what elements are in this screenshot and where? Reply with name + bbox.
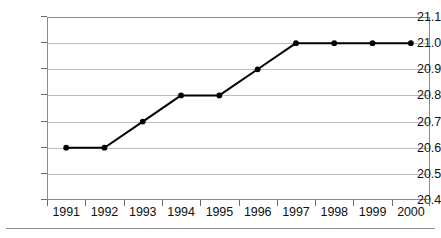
y-axis-tick-label: 21.0: [401, 37, 441, 49]
x-axis-tick-mark: [47, 200, 48, 206]
y-axis-tick-mark: [41, 173, 47, 174]
gridline: [48, 95, 429, 96]
x-axis-tick-mark: [239, 200, 240, 206]
x-axis-tick-label: 1995: [200, 206, 238, 219]
x-axis-tick-label: 1999: [353, 206, 391, 219]
y-axis-tick-mark: [41, 94, 47, 95]
x-axis-tick-mark: [392, 200, 393, 206]
x-axis-tick-label: 1997: [277, 206, 315, 219]
y-axis-tick-mark: [41, 147, 47, 148]
x-axis-tick-label: 1994: [162, 206, 200, 219]
gridline: [48, 122, 429, 123]
y-axis-tick-label: 20.7: [401, 116, 441, 128]
x-axis-tick-label: 2000: [392, 206, 430, 219]
x-axis-tick-mark: [315, 200, 316, 206]
x-axis-tick-mark: [200, 200, 201, 206]
x-axis-tick-mark: [277, 200, 278, 206]
gridline: [48, 174, 429, 175]
x-axis-tick-mark: [85, 200, 86, 206]
y-axis-tick-mark: [41, 121, 47, 122]
y-axis-tick-label: 20.6: [401, 142, 441, 154]
plot-area: [47, 17, 430, 200]
y-axis-tick-label: 20.8: [401, 89, 441, 101]
bottom-divider: [6, 228, 435, 229]
x-axis-tick-mark: [162, 200, 163, 206]
gridline: [48, 43, 429, 44]
x-axis-tick-label: 1992: [85, 206, 123, 219]
x-axis-tick-label: 1991: [47, 206, 85, 219]
x-axis-tick-label: 1998: [315, 206, 353, 219]
y-axis-tick-mark: [41, 68, 47, 69]
y-axis-tick-mark: [41, 16, 47, 17]
y-axis-tick-label: 20.9: [401, 63, 441, 75]
x-axis-tick-label: 1996: [239, 206, 277, 219]
y-axis-tick-mark: [41, 42, 47, 43]
y-axis-tick-label: 20.5: [401, 168, 441, 180]
x-axis-tick-mark: [353, 200, 354, 206]
x-axis-tick-mark: [124, 200, 125, 206]
gridline: [48, 69, 429, 70]
x-axis-tick-mark: [429, 200, 430, 206]
x-axis-tick-label: 1993: [124, 206, 162, 219]
y-axis-tick-label: 21.1: [401, 11, 441, 23]
gridline: [48, 148, 429, 149]
chart-figure: 21.121.020.920.820.720.620.520.4 1991199…: [0, 0, 441, 238]
